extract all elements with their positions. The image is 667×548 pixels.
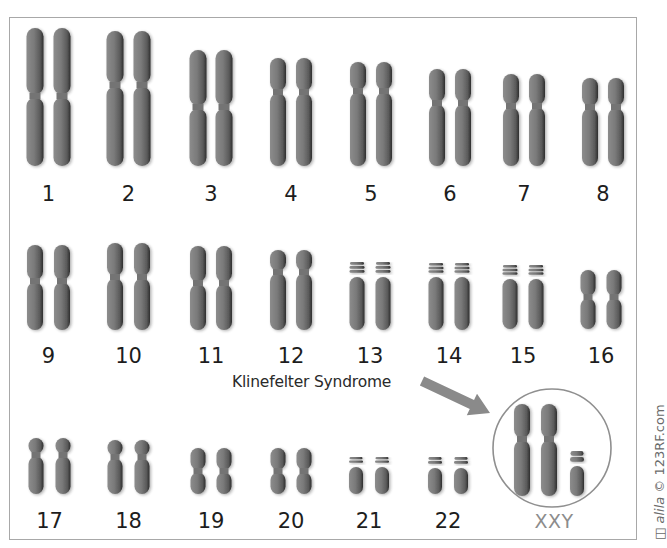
chromosome-label-18: 18 [115,509,142,533]
chromosome-label-11: 11 [198,344,225,368]
chromosome-label-19: 19 [198,509,225,533]
chromosome-18-b [135,440,152,495]
chromosome-8-a [582,78,600,167]
chromosome-label-10: 10 [115,344,142,368]
chromosome-17-b [56,438,73,495]
chromosome-label-3: 3 [204,182,217,206]
chromosome-label-20: 20 [278,509,305,533]
syndrome-label: Klinefelter Syndrome [232,373,391,391]
chromosome-label-5: 5 [364,182,377,206]
chromosome-14-b [455,263,472,331]
chromosome-13-a [350,262,367,331]
sex-chromosome-x-1 [541,404,559,497]
chromosome-label-14: 14 [436,344,463,368]
chromosome-16-a [581,270,598,330]
chromosome-15-a [503,265,520,330]
chromosome-19-a [191,448,208,495]
chromosome-17-a [29,438,46,495]
camera-icon: ◫ [652,528,667,540]
chromosome-20-a [271,448,288,495]
chromosome-4-a [270,58,288,167]
chromosome-label-2: 2 [122,182,135,206]
chromosome-label-1: 1 [42,182,55,206]
chromosome-21-b [375,457,391,495]
chromosome-5-a [350,62,368,167]
chromosome-10-a [107,243,125,331]
chromosome-label-8: 8 [596,182,609,206]
chromosome-2-a [107,31,126,167]
chromosome-7-a [503,74,521,167]
chromosome-4-b [296,58,314,167]
chromosome-16-b [607,270,624,330]
chromosome-label-6: 6 [443,182,456,206]
chromosome-label-7: 7 [517,182,530,206]
chromosome-15-b [529,265,546,330]
chromosome-label-13: 13 [357,344,384,368]
chromosome-11-b [216,246,234,331]
chromosome-3-a [190,50,209,167]
watermark-text: © 123RF.com [652,404,667,492]
chromosome-12-b [296,250,314,331]
chromosome-label-12: 12 [278,344,305,368]
chromosome-13-b [376,262,393,331]
chromosome-3-b [216,50,235,167]
sex-chromosome-y-2 [570,451,586,497]
chromosome-label-17: 17 [36,509,63,533]
chromosome-1-b [54,28,73,167]
watermark-author: alila [652,497,667,524]
xxy-label: XXY [534,510,573,532]
chromosome-6-b [455,69,473,167]
chromosome-label-9: 9 [42,344,55,368]
chromosome-9-b [54,245,72,331]
chromosome-label-16: 16 [588,344,615,368]
chromosome-10-b [134,243,152,331]
chromosome-20-b [297,448,314,495]
pointer-arrow [420,376,490,415]
chromosome-8-b [608,78,626,167]
chromosome-9-a [27,245,45,331]
chromosome-21-a [349,457,365,495]
chromosome-5-b [376,62,394,167]
chromosome-18-a [108,440,125,495]
chromosome-22-a [428,457,444,495]
chromosome-12-a [270,250,288,331]
chromosome-2-b [134,31,153,167]
chromosome-label-22: 22 [435,509,462,533]
chromosome-label-4: 4 [284,182,297,206]
arrow-icon [420,376,490,415]
chromosome-layer [27,28,626,497]
sex-chromosome-x-0 [514,404,532,497]
chromosome-6-a [429,69,447,167]
chromosome-14-a [429,263,446,331]
chromosome-label-15: 15 [510,344,537,368]
watermark: ◫ alila © 123RF.com [652,404,667,540]
chromosome-label-21: 21 [356,509,383,533]
chromosome-1-a [27,28,46,167]
chromosome-19-b [217,448,234,495]
chromosome-7-b [529,74,547,167]
chromosome-11-a [190,246,208,331]
chromosome-22-b [454,457,470,495]
